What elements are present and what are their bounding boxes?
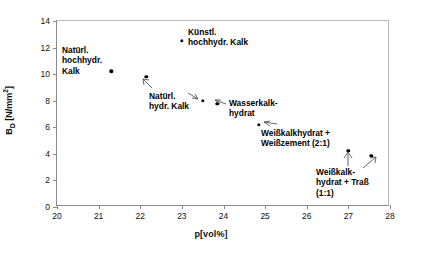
arrow-natuerl-hydr-kalk-2	[188, 93, 198, 99]
arrow-weisskalkhydrat-trass-a	[344, 152, 352, 166]
x-axis-title-label: p[vol%]	[194, 229, 227, 239]
chart-root: BD [N/mm2] 02468101214 20212223242526272…	[0, 0, 422, 263]
annotation-arrows	[0, 0, 422, 263]
arrow-weisskalkhydrat-trass-b	[363, 157, 376, 168]
x-axis-title: p[vol%]	[0, 229, 422, 239]
arrow-natuerl-hydr-kalk	[143, 79, 152, 88]
arrow-weisskalkhydrat-weisszement	[264, 121, 277, 126]
arrow-wasserkalkhydrat	[215, 100, 226, 104]
